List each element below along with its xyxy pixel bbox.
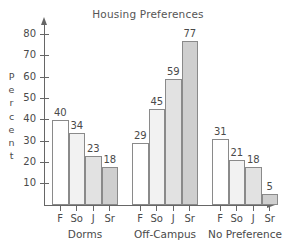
y-axis-tick-label: 60 [18,72,36,82]
x-axis-tick [76,205,77,211]
y-axis-title-letter: t [6,149,17,162]
x-axis-tick-label: Sr [98,213,122,224]
bar[interactable] [149,109,166,205]
x-axis-tick [173,205,174,211]
x-axis-tick [140,205,141,211]
y-axis-title-letter: n [6,136,17,149]
bar-value-label: 77 [179,29,202,39]
bar-chart: Housing Preferences Percent 102030405060… [0,0,296,248]
bar[interactable] [102,167,119,205]
x-axis-tick [60,205,61,211]
bar[interactable] [229,160,246,205]
y-axis-title-letter: e [6,83,17,96]
bar-value-label: 31 [209,127,232,137]
x-axis-tick [189,205,190,211]
bar-value-label: 18 [99,155,122,165]
y-axis-tick-label: 70 [18,50,36,60]
x-axis-tick-label: Sr [178,213,202,224]
y-axis-title-letter: r [6,96,17,109]
y-axis-title-letter: e [6,123,17,136]
y-axis-title: Percent [6,70,17,162]
x-axis-tick [156,205,157,211]
bar-value-label: 5 [259,182,282,192]
y-axis-tick-label: 10 [18,178,36,188]
x-axis-tick [109,205,110,211]
y-axis-tick-label: 30 [18,136,36,146]
x-axis-tick [93,205,94,211]
y-axis-tick-label: 80 [18,29,36,39]
bar[interactable] [132,143,149,205]
plot-area: 40342318294559773121185 [44,24,268,205]
bar[interactable] [262,194,279,205]
x-axis-tick-label: Sr [258,213,282,224]
y-axis-tick-label: 40 [18,114,36,124]
bar[interactable] [52,120,69,205]
bar-value-label: 34 [66,121,89,131]
y-axis-tick-label: 50 [18,93,36,103]
bar-group: 29455977 [132,24,198,205]
bar-value-label: 40 [49,108,72,118]
x-axis-tick [236,205,237,211]
bar-group: 3121185 [212,24,278,205]
y-axis-tick-label: 20 [18,157,36,167]
bar[interactable] [182,41,199,205]
x-axis-tick [269,205,270,211]
bar-value-label: 23 [82,144,105,154]
bar[interactable] [165,79,182,205]
x-axis-tick [253,205,254,211]
bar-group: 40342318 [52,24,118,205]
group-label: No Preference [195,228,295,240]
y-axis-title-letter: c [6,110,17,123]
bar-value-label: 18 [242,155,265,165]
x-axis-tick [220,205,221,211]
y-axis-title-letter: P [6,70,17,83]
